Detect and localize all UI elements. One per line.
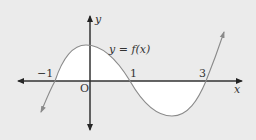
x-axis-label: x [234,84,240,95]
y-axis-label: y [95,14,101,25]
x-tick-label-1: 1 [130,68,137,79]
x-tick-label-3: 3 [199,68,206,79]
x-tick-label-neg1: −1 [37,68,53,79]
function-graph: y x O y = f(x) −1 1 3 [0,0,256,140]
origin-label: O [80,83,89,94]
function-label: y = f(x) [109,44,150,55]
